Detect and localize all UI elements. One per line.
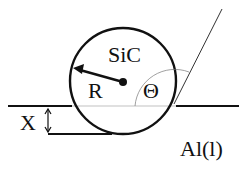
angle-label: Θ	[143, 78, 159, 103]
sic-label: SiC	[108, 42, 141, 67]
tangent-line	[174, 9, 222, 104]
radius-label: R	[88, 78, 103, 103]
wetting-diagram: SiC R Θ X Al(l)	[0, 0, 246, 176]
arrow-head-icon	[73, 64, 84, 74]
depth-label: X	[20, 110, 36, 135]
liquid-label: Al(l)	[180, 136, 223, 161]
